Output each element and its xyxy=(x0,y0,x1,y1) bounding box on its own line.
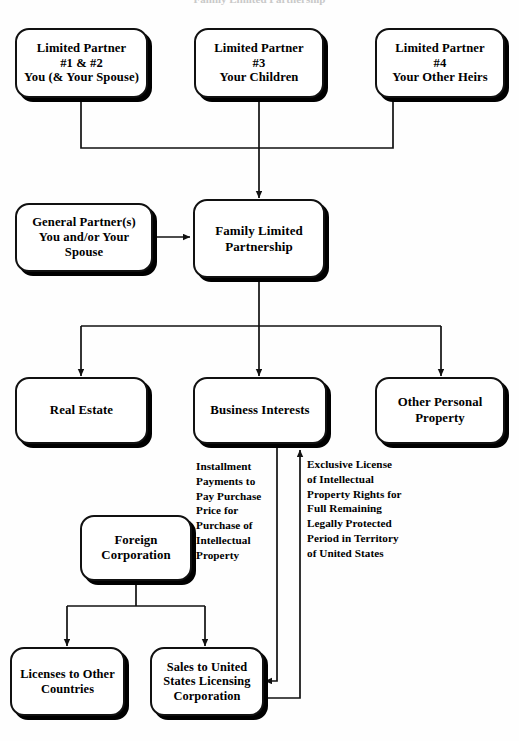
node-business-interests[interactable]: Business Interests xyxy=(193,377,327,444)
node-limited-partner-1-2-label: Limited Partner #1 & #2 You (& Your Spou… xyxy=(20,41,143,86)
diagram-title-clipped: Family Limited Partnership xyxy=(0,0,519,10)
node-other-personal-property[interactable]: Other Personal Property xyxy=(375,377,505,444)
flowchart-canvas: Family Limited Partnership xyxy=(0,0,519,741)
node-general-partner-label: General Partner(s) You and/or Your Spous… xyxy=(28,215,140,260)
node-foreign-corporation-label: Foreign Corporation xyxy=(97,533,174,563)
node-sales-us-licensing-label: Sales to United States Licensing Corpora… xyxy=(159,660,254,704)
node-sales-us-licensing[interactable]: Sales to United States Licensing Corpora… xyxy=(150,647,264,716)
node-limited-partner-3[interactable]: Limited Partner #3 Your Children xyxy=(194,28,324,98)
annotation-exclusive-license: Exclusive License of Intellectual Proper… xyxy=(307,457,419,560)
node-limited-partner-4[interactable]: Limited Partner #4 Your Other Heirs xyxy=(375,28,505,98)
wire-limited-partners-bus xyxy=(81,99,393,148)
node-business-interests-label: Business Interests xyxy=(206,403,313,418)
node-real-estate[interactable]: Real Estate xyxy=(15,377,148,444)
node-real-estate-label: Real Estate xyxy=(46,403,117,418)
node-licenses-other-countries-label: Licenses to Other Countries xyxy=(16,667,119,696)
node-limited-partner-1-2[interactable]: Limited Partner #1 & #2 You (& Your Spou… xyxy=(15,28,148,98)
node-foreign-corporation[interactable]: Foreign Corporation xyxy=(80,515,192,581)
node-licenses-other-countries[interactable]: Licenses to Other Countries xyxy=(10,647,125,716)
node-family-limited-partnership-label: Family Limited Partnership xyxy=(211,223,307,254)
node-limited-partner-3-label: Limited Partner #3 Your Children xyxy=(210,41,307,86)
annotation-installment-payments: Installment Payments to Pay Purchase Pri… xyxy=(196,459,274,562)
node-limited-partner-4-label: Limited Partner #4 Your Other Heirs xyxy=(388,41,492,86)
node-other-personal-property-label: Other Personal Property xyxy=(394,395,487,425)
diagram-title-text: Family Limited Partnership xyxy=(0,0,519,5)
connector-layer xyxy=(0,0,519,741)
node-family-limited-partnership[interactable]: Family Limited Partnership xyxy=(193,199,325,278)
node-general-partner[interactable]: General Partner(s) You and/or Your Spous… xyxy=(15,203,153,272)
